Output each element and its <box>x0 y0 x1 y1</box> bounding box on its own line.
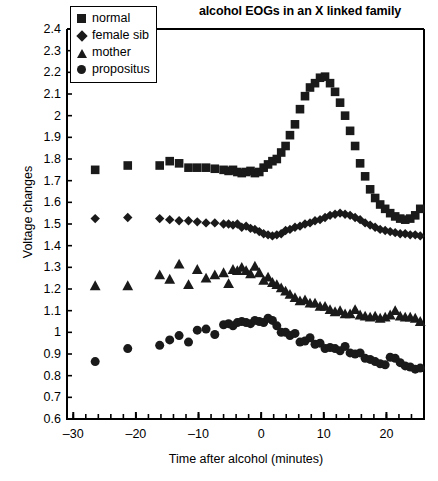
data-point <box>211 164 220 173</box>
data-point <box>165 335 174 344</box>
chart-title: alcohol EOGs in an X linked family <box>170 4 430 18</box>
chart-figure: alcohol EOGs in an X linked family Volta… <box>0 0 438 481</box>
data-point <box>123 161 132 170</box>
legend-label: normal <box>92 12 130 25</box>
y-tick-label: 1.5 <box>27 218 61 230</box>
data-point <box>91 357 100 366</box>
data-point <box>361 172 370 181</box>
plot-canvas <box>0 0 438 481</box>
data-point <box>183 279 194 289</box>
data-point <box>123 344 132 353</box>
data-point <box>336 98 345 107</box>
legend-item-female-sib[interactable]: female sib <box>75 27 150 44</box>
data-point <box>301 92 310 101</box>
data-point <box>356 159 365 168</box>
x-tick-label: 10 <box>304 428 344 440</box>
y-tick-label: 2.4 <box>27 23 61 35</box>
data-point <box>201 218 210 227</box>
data-point <box>90 280 101 290</box>
legend-label: mother <box>92 46 131 59</box>
legend-item-mother[interactable]: mother <box>75 44 150 61</box>
data-point <box>90 214 99 223</box>
x-tick-label: 0 <box>241 428 281 440</box>
data-point <box>175 331 184 340</box>
data-point <box>174 216 183 225</box>
series-normal <box>91 72 425 224</box>
series-female-sib <box>90 208 424 240</box>
data-point <box>291 120 300 129</box>
data-point <box>155 341 164 350</box>
data-point <box>184 216 193 225</box>
y-tick-label: 1.4 <box>27 240 61 252</box>
data-point <box>193 163 202 172</box>
data-point <box>351 142 360 151</box>
data-point <box>366 185 375 194</box>
data-point <box>210 330 219 339</box>
y-tick-label: 1.3 <box>27 261 61 273</box>
data-point <box>341 111 350 120</box>
y-tick-label: 2.2 <box>27 66 61 78</box>
y-tick-label: 2.1 <box>27 88 61 100</box>
data-point <box>223 278 234 288</box>
data-point <box>123 213 132 222</box>
legend-label: female sib <box>92 29 149 42</box>
data-point <box>91 166 100 175</box>
x-tick-label: –30 <box>53 428 93 440</box>
data-point <box>192 264 203 274</box>
data-point <box>155 161 164 170</box>
data-point <box>184 163 193 172</box>
data-point <box>381 360 390 369</box>
x-tick-label: 20 <box>366 428 406 440</box>
x-axis-title: Time after alcohol (minutes) <box>67 452 425 466</box>
y-tick-label: 1.2 <box>27 283 61 295</box>
data-point <box>174 259 185 269</box>
y-tick-label: 1.7 <box>27 175 61 187</box>
x-tick-label: –20 <box>116 428 156 440</box>
data-point <box>416 205 425 214</box>
data-point <box>202 163 211 172</box>
data-point <box>193 217 202 226</box>
y-tick-label: 1.6 <box>27 196 61 208</box>
y-tick-label: 0.9 <box>27 348 61 360</box>
data-point <box>175 159 184 168</box>
data-point <box>122 280 133 290</box>
series-mother <box>90 259 426 326</box>
data-point <box>184 338 193 347</box>
data-point <box>210 218 219 227</box>
data-point <box>201 273 212 283</box>
y-tick-label: 2.3 <box>27 45 61 57</box>
legend-label: propositus <box>92 63 150 76</box>
y-tick-label: 2 <box>27 110 61 122</box>
data-point <box>164 274 175 284</box>
y-tick-label: 1.9 <box>27 131 61 143</box>
y-tick-label: 1.8 <box>27 153 61 165</box>
data-point <box>154 270 165 280</box>
data-point <box>326 79 335 88</box>
data-point <box>281 142 290 151</box>
y-tick-label: 1.1 <box>27 305 61 317</box>
data-point <box>331 88 340 97</box>
y-tick-label: 1 <box>27 326 61 338</box>
data-point <box>346 127 355 136</box>
legend-item-normal[interactable]: normal <box>75 10 150 27</box>
y-tick-label: 0.6 <box>27 413 61 425</box>
data-point <box>290 329 299 338</box>
data-point <box>296 105 305 114</box>
data-point <box>218 267 229 277</box>
y-tick-label: 0.7 <box>27 391 61 403</box>
data-point <box>155 214 164 223</box>
data-point <box>165 215 174 224</box>
series-propositus <box>91 314 425 374</box>
data-point <box>209 270 220 280</box>
data-point <box>193 326 202 335</box>
circle-marker-icon <box>75 63 88 76</box>
data-point <box>202 325 211 334</box>
diamond-marker-icon <box>75 29 88 42</box>
data-point <box>416 364 425 373</box>
triangle-marker-icon <box>75 46 88 59</box>
data-point <box>165 157 174 166</box>
square-marker-icon <box>75 12 88 25</box>
x-tick-label: –10 <box>179 428 219 440</box>
legend-item-propositus[interactable]: propositus <box>75 61 150 78</box>
chart-legend: normal female sib mother propositus <box>70 6 157 83</box>
